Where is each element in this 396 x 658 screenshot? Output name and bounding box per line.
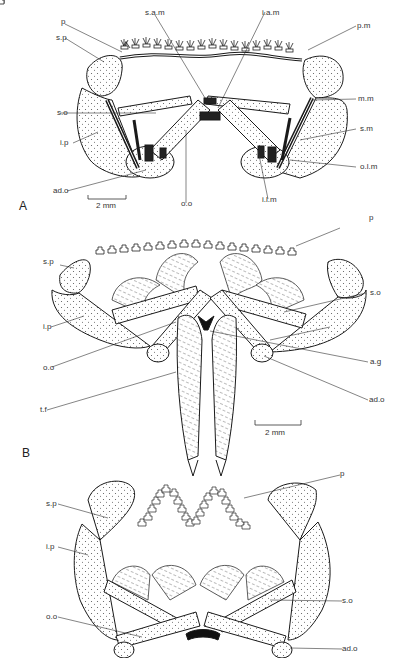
panel-c: [58, 475, 342, 658]
label-b-p: p: [369, 214, 373, 222]
label-b-sp: s.p: [43, 258, 54, 266]
label-a-olm: o.l.m: [360, 163, 377, 171]
anatomy-figure: [0, 0, 396, 658]
label-a-iam: i.a.m: [262, 9, 279, 17]
label-c-oo: o.o: [46, 613, 57, 621]
panel-a: [0, 0, 356, 203]
label-a-pm: p.m: [357, 22, 370, 30]
label-b-ag: a.g: [370, 358, 381, 366]
superior-palp-left: [87, 56, 123, 97]
label-c-so: s.o: [342, 597, 353, 605]
label-a-oo: o.o: [181, 200, 192, 208]
panel-letter-b: B: [22, 446, 30, 460]
panel-letter-a: A: [19, 199, 27, 213]
label-b-so: s.o: [370, 289, 381, 297]
label-a-sam: s.a.m: [145, 9, 165, 17]
label-a-sm: s.m: [360, 125, 373, 133]
label-a-ip: i.p: [60, 139, 68, 147]
label-b-tf: t.f: [40, 406, 47, 414]
label-a-sp: s.p: [56, 34, 67, 42]
label-c-p: p: [340, 470, 344, 478]
label-c-ado: ad.o: [342, 645, 358, 653]
scale-bar-a-label: 2 mm: [96, 201, 116, 210]
label-a-mm: m.m: [358, 95, 374, 103]
label-b-ip: i.p: [43, 323, 51, 331]
label-a-ilm: i.l.m: [262, 196, 277, 204]
label-b-oo: o.o: [43, 364, 54, 372]
label-a-ado: ad.o: [53, 187, 69, 195]
scale-bar-b-label: 2 mm: [265, 428, 285, 437]
label-c-ip: i.p: [46, 543, 54, 551]
label-b-ado: ad.o: [369, 396, 385, 404]
label-a-p: p: [61, 18, 65, 26]
label-c-sp: s.p: [46, 500, 57, 508]
label-a-so: s.o: [57, 109, 68, 117]
